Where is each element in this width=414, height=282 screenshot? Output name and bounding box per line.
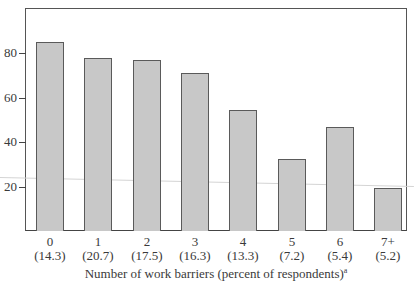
y-tick-label: 40 (0, 135, 17, 148)
x-category-label: 1 (74, 235, 122, 249)
y-tick-label: 60 (0, 91, 17, 104)
x-category-percent: (17.5) (123, 249, 171, 263)
bar-7plus (374, 188, 402, 231)
x-category-label: 4 (219, 235, 267, 249)
y-tick (19, 98, 26, 99)
x-category-percent: (5.2) (364, 249, 412, 263)
x-category-percent: (7.2) (268, 249, 316, 263)
bar-4 (229, 110, 257, 231)
bar-3 (181, 73, 209, 231)
x-category-label: 6 (316, 235, 364, 249)
x-axis-title-text: Number of work barriers (percent of resp… (85, 266, 344, 281)
bar-6 (326, 127, 354, 231)
x-category-percent: (20.7) (74, 249, 122, 263)
y-tick (19, 187, 26, 188)
x-axis-title-footnote: a (344, 266, 348, 275)
x-category-percent: (13.3) (219, 249, 267, 263)
x-category-label: 7+ (364, 235, 412, 249)
x-category-label: 5 (268, 235, 316, 249)
x-category-percent: (5.4) (316, 249, 364, 263)
y-tick (19, 53, 26, 54)
x-category-label: 3 (171, 235, 219, 249)
x-axis-title: Number of work barriers (percent of resp… (25, 263, 407, 281)
x-category-label: 0 (26, 235, 74, 249)
bar-0 (36, 42, 64, 231)
bar-5 (278, 159, 306, 231)
y-tick (19, 142, 26, 143)
x-category-percent: (14.3) (26, 249, 74, 263)
x-category-label: 2 (123, 235, 171, 249)
x-category-percent: (16.3) (171, 249, 219, 263)
bar-2 (133, 60, 161, 231)
bar-1 (84, 58, 112, 231)
y-tick-label: 20 (0, 180, 17, 193)
y-tick-label: 80 (0, 46, 17, 59)
